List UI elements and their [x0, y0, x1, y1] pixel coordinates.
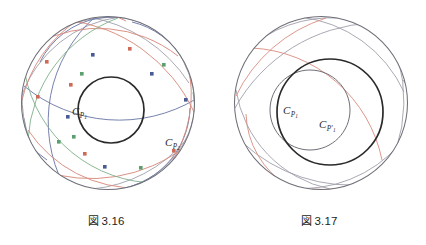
caption-mark-icon: 図: [301, 215, 312, 228]
caption-number: 3.16: [102, 215, 125, 227]
gray-geodesic-arcs: [214, 13, 421, 210]
figure-panel-3-17: CP1 CP'1 図3.17: [213, 0, 426, 245]
disk-diagram-3-16: CP1 CP2: [0, 0, 213, 210]
geodesic-arc-group-right: [214, 9, 421, 210]
label-c-p1-prime: CP'1: [319, 118, 336, 133]
figure-caption-3-17: 図3.17: [213, 212, 426, 228]
geodesic-arc-group-left: [12, 11, 198, 199]
inner-gray-circle-cp1-prime: [270, 70, 350, 150]
label-c-p1: CP1: [72, 105, 87, 120]
inner-bold-circle-cp1: [78, 77, 144, 143]
gray-geodesic-arcs: [19, 11, 196, 196]
caption-number: 3.17: [315, 215, 338, 227]
intersection-nodes-left: [36, 47, 188, 170]
label-c-p1: CP1: [283, 104, 298, 119]
figure-caption-3-16: 図3.16: [0, 212, 213, 228]
caption-mark-icon: 図: [88, 215, 99, 228]
disk-diagram-3-17: CP1 CP'1: [213, 0, 426, 210]
label-c-p2: CP2: [165, 136, 180, 151]
figure-panel-3-16: CP1 CP2 図3.16: [0, 0, 213, 245]
figure-sheet: CP1 CP2 図3.16: [0, 0, 426, 245]
